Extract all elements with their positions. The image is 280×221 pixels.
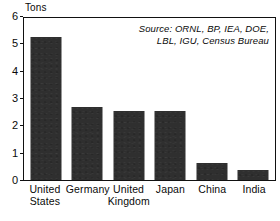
bar-slot-japan [150, 18, 192, 180]
bar-slot-germany [67, 18, 109, 180]
bar-germany [72, 107, 103, 180]
bar-slot-united-kingdom [108, 18, 150, 180]
x-axis-label-line-1: China [198, 183, 226, 195]
bar-china [196, 163, 227, 180]
y-axis-tick-label: 6 [12, 10, 18, 22]
plot-area: Source: ORNL, BP, IEA, DOE, LBL, IGU, Ce… [23, 17, 276, 181]
bar-slot-china [191, 18, 233, 180]
x-axis-label-line-1: United [113, 183, 144, 195]
bar-chart: Tons 0 1 2 3 4 5 6 [0, 0, 280, 221]
y-axis: 0 1 2 3 4 5 6 [0, 17, 23, 181]
plot-inner: Source: ORNL, BP, IEA, DOE, LBL, IGU, Ce… [24, 18, 275, 180]
x-axis-label-line-2: States [24, 195, 66, 207]
bar-united-states [30, 37, 61, 180]
y-axis-tick-label: 4 [12, 65, 18, 77]
bars-layer [25, 18, 274, 180]
x-axis-label-line-1: India [242, 183, 265, 195]
x-axis-label-line-1: Japan [156, 183, 185, 195]
y-axis-tick-label: 0 [12, 174, 18, 186]
x-axis-label-united-kingdom: United Kingdom [108, 183, 150, 207]
y-axis-tick-label: 1 [12, 147, 18, 159]
bar-slot-india [232, 18, 274, 180]
bar-japan [155, 111, 186, 180]
bar-united-kingdom [113, 111, 144, 180]
x-axis-label-germany: Germany [66, 183, 108, 195]
x-axis-label-line-1: United [29, 183, 60, 195]
y-axis-unit-label: Tons [25, 2, 47, 13]
x-axis-labels: United States Germany United Kingdom Jap… [24, 183, 275, 219]
bar-india [238, 170, 269, 180]
x-axis-label-india: India [233, 183, 275, 195]
y-axis-tick-label: 5 [12, 37, 18, 49]
x-axis-label-japan: Japan [150, 183, 192, 195]
x-axis-label-united-states: United States [24, 183, 66, 207]
bar-slot-united-states [25, 18, 67, 180]
x-axis-label-line-2: Kingdom [108, 195, 150, 207]
x-axis-label-line-1: Germany [66, 183, 110, 195]
y-axis-tick-label: 2 [12, 119, 18, 131]
x-axis-label-china: China [191, 183, 233, 195]
y-axis-tick-label: 3 [12, 92, 18, 104]
